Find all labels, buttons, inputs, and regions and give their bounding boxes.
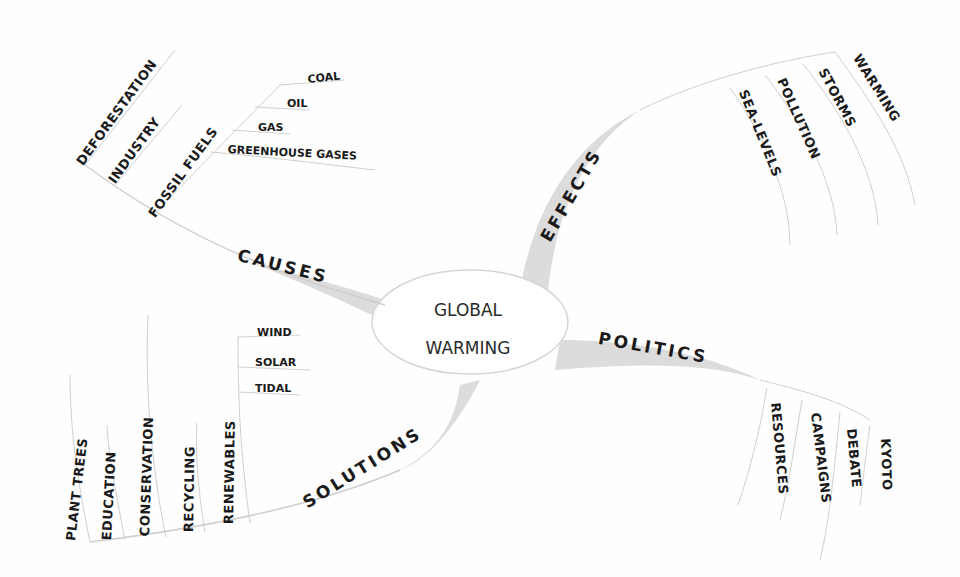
mind-map: GLOBAL WARMING CAUSES EFFECTS POLITICS S…	[0, 0, 960, 577]
solutions-item: CONSERVATION	[138, 416, 155, 536]
center-title-line2: WARMING	[378, 340, 558, 357]
renewables-item: WIND	[257, 327, 292, 338]
fossil-fuels-item: COAL	[307, 71, 341, 85]
solutions-item: RENEWABLES	[222, 420, 237, 524]
renewables-item: TIDAL	[255, 383, 291, 394]
renewables-item: SOLAR	[255, 357, 296, 368]
politics-item: KYOTO	[879, 438, 894, 491]
center-title-line1: GLOBAL	[378, 302, 558, 319]
fossil-fuels-item: GAS	[258, 122, 283, 133]
solutions-item: RECYCLING	[182, 446, 197, 532]
fossil-fuels-item: OIL	[287, 98, 307, 109]
